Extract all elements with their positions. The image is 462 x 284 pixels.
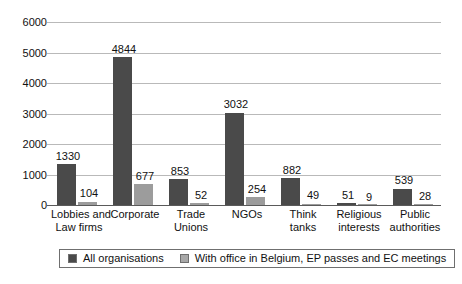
x-category-line-1: Corporate xyxy=(111,208,160,220)
x-category-line-1: NGOs xyxy=(232,208,263,220)
bar-group: 51 9 xyxy=(331,22,383,205)
legend-label: With office in Belgium, EP passes and EC… xyxy=(195,253,447,264)
x-category-line-1: Think xyxy=(290,208,317,220)
x-category-label-corporate: Corporate xyxy=(107,208,163,221)
chart-legend: All organisations With office in Belgium… xyxy=(59,249,455,268)
x-category-line-2: Unions xyxy=(163,221,219,234)
x-category-line-2: Law firms xyxy=(51,221,107,234)
legend-swatch-icon xyxy=(180,254,189,263)
bar-chart: 6000 5000 4000 3000 2000 1000 0 1330 104… xyxy=(0,0,462,284)
bar-with-office[interactable] xyxy=(134,184,153,205)
bar-value-label: 4844 xyxy=(104,44,144,55)
bar-group: 853 52 xyxy=(163,22,215,205)
x-category-label-public-authorities: Public authorities xyxy=(387,208,443,234)
bar-group: 1330 104 xyxy=(51,22,103,205)
y-tick-label: 1000 xyxy=(3,169,47,180)
x-category-label-ngos: NGOs xyxy=(219,208,275,221)
bar-group: 4844 677 xyxy=(107,22,159,205)
x-category-line-1: Public xyxy=(400,208,430,220)
y-tick-label: 4000 xyxy=(3,78,47,89)
x-category-line-2: interests xyxy=(331,221,387,234)
bar-group: 539 28 xyxy=(387,22,439,205)
bar-value-label: 254 xyxy=(237,184,277,195)
y-tick-label: 2000 xyxy=(3,139,47,150)
bar-value-label: 49 xyxy=(293,190,333,201)
x-category-line-1: Religious xyxy=(336,208,381,220)
bar-group: 882 49 xyxy=(275,22,327,205)
bar-value-label: 539 xyxy=(384,175,424,186)
x-category-label-trade-unions: Trade Unions xyxy=(163,208,219,234)
y-tick-label: 0 xyxy=(3,200,47,211)
bar-with-office[interactable] xyxy=(302,204,321,206)
bar-value-label: 3032 xyxy=(216,99,256,110)
bar-value-label: 9 xyxy=(349,192,389,203)
bar-with-office[interactable] xyxy=(190,203,209,205)
legend-label: All organisations xyxy=(83,253,164,264)
legend-entry-with-office[interactable]: With office in Belgium, EP passes and EC… xyxy=(180,253,447,264)
bar-value-label: 1330 xyxy=(48,151,88,162)
x-category-line-2: tanks xyxy=(275,221,331,234)
bar-value-label: 28 xyxy=(405,191,445,202)
bar-value-label: 882 xyxy=(272,165,312,176)
bar-value-label: 52 xyxy=(181,190,221,201)
bar-value-label: 677 xyxy=(125,171,165,182)
x-category-label-think-tanks: Think tanks xyxy=(275,208,331,234)
x-category-label-religious-interests: Religious interests xyxy=(331,208,387,234)
y-tick-label: 3000 xyxy=(3,108,47,119)
bar-value-label: 853 xyxy=(160,166,200,177)
y-tick-label: 6000 xyxy=(3,17,47,28)
bar-with-office[interactable] xyxy=(358,204,377,205)
plot-area: 1330 104 4844 677 853 52 3032 254 xyxy=(47,22,441,205)
bar-with-office[interactable] xyxy=(414,204,433,205)
bar-all-organisations[interactable] xyxy=(113,57,132,205)
legend-swatch-icon xyxy=(68,254,77,263)
bar-all-organisations[interactable] xyxy=(337,203,356,205)
bar-value-label: 104 xyxy=(69,188,109,199)
bar-with-office[interactable] xyxy=(78,202,97,205)
y-tick-label: 5000 xyxy=(3,47,47,58)
x-category-line-1: Lobbies and xyxy=(51,208,111,220)
x-category-label-lobbies-and-law-firms: Lobbies and Law firms xyxy=(51,208,107,234)
bar-group: 3032 254 xyxy=(219,22,271,205)
bar-with-office[interactable] xyxy=(246,197,265,205)
legend-entry-all-organisations[interactable]: All organisations xyxy=(68,253,164,264)
x-category-line-1: Trade xyxy=(177,208,205,220)
x-category-line-2: authorities xyxy=(387,221,443,234)
axis-baseline xyxy=(47,205,441,206)
